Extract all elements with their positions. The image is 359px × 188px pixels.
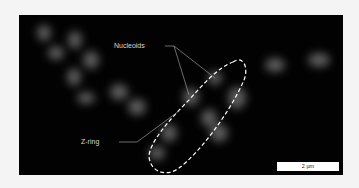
fluorescence-cells [19,15,343,175]
nucleoids-leader-1 [165,46,215,78]
micrograph-panel: Nucleoids Z-ring 2 µm [19,15,343,175]
nucleoids-leader-2 [174,46,189,95]
z-ring-label: Z-ring [81,138,99,146]
nucleoids-label: Nucleoids [114,42,145,50]
scale-bar: 2 µm [277,162,339,171]
